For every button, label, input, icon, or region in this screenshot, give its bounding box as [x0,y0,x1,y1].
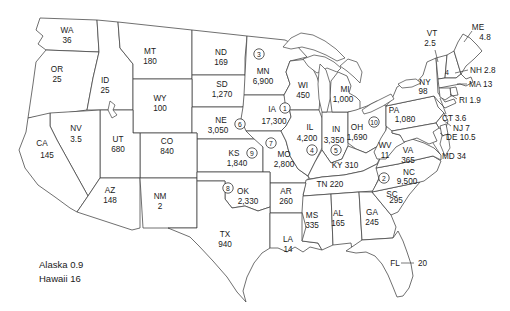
state-value-az: 148 [103,196,117,205]
us-map-svg: WA36OR25CA145NV3.5ID25MT180WY100UT680CO8… [0,0,510,311]
state-label-sd: SD [216,80,227,89]
state-label-ut: UT [113,135,124,144]
state-value-va: 365 [401,156,415,165]
state-label-wy: WY [153,94,167,103]
state-label-fl: FL [390,259,400,268]
rank-number-nc: 2 [382,175,386,182]
rank-number-mn: 3 [257,51,261,58]
state-value-mi: 1,000 [333,95,354,104]
state-label-tn: TN 220 [317,180,344,189]
state-label-nv: NV [70,124,82,133]
us-state-data-map: WA36OR25CA145NV3.5ID25MT180WY100UT680CO8… [0,0,510,311]
state-label-il: IL [307,123,314,132]
state-value-oh: 1,690 [347,133,368,142]
state-value-vt: 2.5 [424,39,436,48]
state-value-ms: 335 [305,221,319,230]
state-label-nc: NC [403,168,415,177]
state-label-ar: AR [280,187,291,196]
state-label-wa: WA [61,26,74,35]
state-label-ne: NE [215,116,227,125]
rank-number-mo: 7 [269,140,273,147]
state-value-wy: 100 [153,104,167,113]
state-label-la: LA [283,235,294,244]
state-value-ok: 2,330 [238,197,259,206]
state-label-mt: MT [144,47,156,56]
state-label-mn: MN [257,67,270,76]
state-label-nh: NH 2.8 [470,66,496,75]
state-value-ne: 3,050 [208,126,229,135]
state-label-nd: ND [215,48,227,57]
state-label-va: VA [403,146,414,155]
inset-label-hawaii: Hawaii 16 [39,273,81,284]
rank-number-oh: 10 [370,119,378,126]
state-label-az: AZ [105,186,115,195]
state-label-ct: CT 3.6 [442,114,467,123]
state-value-ut: 680 [111,145,125,154]
state-label-nm: NM [154,192,167,201]
state-label-pa: PA [389,106,400,115]
state-label-ok: OK [237,187,249,196]
state-value-ar: 260 [279,197,293,206]
rank-number-ok: 8 [226,185,230,192]
state-label-ny: NY [419,78,431,87]
state-label-de: DE 10.5 [446,133,476,142]
state-label-md: MD 34 [442,152,467,161]
state-value-la: 14 [283,245,293,254]
state-label-oh: OH [351,123,363,132]
state-label-vt: VT [427,29,437,38]
state-label-tx: TX [220,230,231,239]
state-value-mn: 6,900 [253,77,274,86]
state-label-ma: MA 13 [469,80,493,89]
state-value-mo: 2,800 [274,160,295,169]
state-value-me: 4.8 [479,33,491,42]
state-label-ri: RI 1.9 [459,96,481,105]
rank-number-ne: 6 [238,121,242,128]
state-value-nd: 169 [214,58,228,67]
state-value-wi: 450 [296,91,310,100]
state-value-in: 3,350 [324,136,345,145]
state-value-co: 840 [160,147,174,156]
state-value-or: 25 [52,75,62,84]
state-label-mo: MO [277,150,290,159]
state-label-id: ID [101,76,109,85]
state-value-id: 25 [100,86,110,95]
rank-number-ks: 9 [250,150,254,157]
state-value-sd: 1,270 [212,90,233,99]
state-value-al: 165 [331,219,345,228]
state-value-wv: 11 [381,151,390,160]
state-label-mi: MI [340,85,349,94]
state-value-tx: 940 [218,240,232,249]
state-value-il: 4,200 [297,134,318,143]
state-label-ga: GA [366,208,378,217]
state-label-or: OR [51,65,63,74]
state-value-ks: 1,840 [227,159,248,168]
state-value-ia: 17,300 [261,117,286,126]
state-label-al: AL [333,209,343,218]
state-label-ms: MS [306,211,319,220]
rank-number-ia: 1 [283,105,287,112]
state-value-fl: 20 [418,259,428,268]
state-value-nv: 3.5 [70,135,82,144]
state-label-wv: WV [378,141,392,150]
state-value-mt: 180 [143,57,157,66]
state-label-ks: KS [229,149,240,158]
stray-annotation: 4 [445,69,449,76]
rank-number-il: 4 [310,147,314,154]
state-value-ga: 245 [365,218,379,227]
state-value-ny: 98 [418,87,428,96]
state-label-ky: KY 310 [332,161,359,170]
state-label-in: IN [332,125,340,134]
state-value-wa: 36 [62,36,72,45]
state-label-ca: CA [36,139,48,148]
state-value-sc: 295 [389,196,403,205]
state-value-nc: 9,500 [397,177,418,186]
state-shape-nm [140,178,197,228]
state-label-me: ME [472,23,485,32]
state-label-wi: WI [298,81,308,90]
state-value-nm: 2 [158,202,163,211]
state-label-nj: NJ 7 [453,124,470,133]
rank-number-in: 5 [334,147,338,154]
inset-label-alaska: Alaska 0.9 [39,259,83,270]
state-label-ia: IA [268,105,276,114]
state-label-co: CO [161,137,173,146]
